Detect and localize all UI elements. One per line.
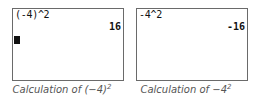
input-expression: (-4)^2 xyxy=(15,9,49,20)
caption-prefix: Calculation of xyxy=(13,84,85,95)
caption-prefix: Calculation of xyxy=(140,84,212,95)
caption-exponent: 2 xyxy=(227,83,231,91)
cursor-block-icon xyxy=(14,36,20,44)
input-expression: -4^2 xyxy=(139,9,162,20)
caption-base: −4 xyxy=(212,84,227,95)
calculator-screen: -4^2 -16 xyxy=(136,8,248,81)
calculator-screen: (-4)^2 16 xyxy=(12,8,124,81)
panel-neg-square: -4^2 -16 Calculation of −42 xyxy=(124,0,248,102)
caption: Calculation of −42 xyxy=(124,83,248,95)
caption-base: (−4) xyxy=(84,84,107,95)
result-value: 16 xyxy=(109,21,121,32)
caption-exponent: 2 xyxy=(107,83,111,91)
panel-paren-square: (-4)^2 16 Calculation of (−4)2 xyxy=(0,0,124,102)
result-value: -16 xyxy=(227,21,245,32)
caption: Calculation of (−4)2 xyxy=(0,83,124,95)
